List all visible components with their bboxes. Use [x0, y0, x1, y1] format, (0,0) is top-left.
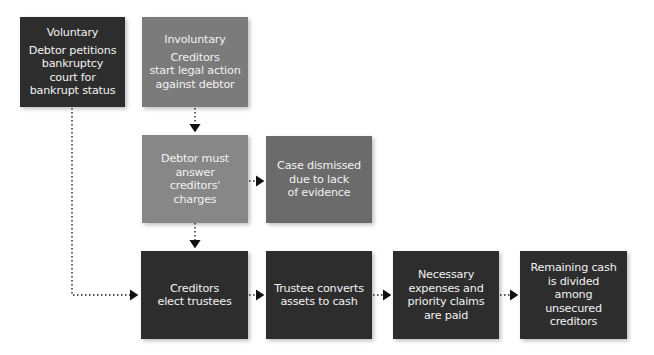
node-line: Creditors	[170, 51, 219, 65]
node-line: Debtor petitions	[29, 44, 117, 58]
node-line: among	[555, 288, 593, 302]
node-involuntary: Involuntary Creditors start legal action…	[142, 17, 248, 107]
node-line: of evidence	[288, 186, 351, 200]
node-line: are paid	[424, 309, 468, 323]
node-line: is divided	[548, 275, 600, 289]
node-line: court for	[49, 71, 95, 85]
node-line: unsecured	[545, 302, 602, 316]
node-line: Creditors	[170, 282, 219, 296]
node-title: Voluntary	[47, 26, 99, 40]
node-line: Trustee converts	[274, 282, 364, 296]
node-line: priority claims	[408, 295, 485, 309]
node-line: bankrupt status	[30, 84, 116, 98]
node-line: Necessary	[418, 268, 474, 282]
node-line: due to lack	[289, 173, 349, 187]
node-line: creditors'	[170, 179, 220, 193]
node-case-dismissed: Case dismissed due to lack of evidence	[266, 136, 372, 223]
node-remaining-cash: Remaining cash is divided among unsecure…	[520, 251, 627, 339]
node-line: bankruptcy	[42, 57, 103, 71]
node-trustee-converts: Trustee converts assets to cash	[266, 251, 372, 339]
node-title: Involuntary	[164, 33, 225, 47]
node-line: charges	[174, 193, 217, 207]
edge-voluntary-to-elect	[72, 108, 137, 295]
node-line: expenses and	[408, 282, 483, 296]
node-line: Case dismissed	[277, 159, 361, 173]
node-voluntary: Voluntary Debtor petitions bankruptcy co…	[20, 17, 125, 107]
node-line: assets to cash	[280, 295, 357, 309]
node-line: elect trustees	[157, 295, 231, 309]
node-line: Remaining cash	[530, 261, 616, 275]
node-line: creditors	[550, 315, 597, 329]
node-expenses-paid: Necessary expenses and priority claims a…	[393, 251, 499, 339]
node-line: answer	[175, 166, 214, 180]
node-debtor-answer: Debtor must answer creditors' charges	[142, 135, 248, 223]
node-line: Debtor must	[161, 152, 229, 166]
node-line: start legal action	[149, 64, 240, 78]
node-line: against debtor	[156, 78, 235, 92]
node-elect-trustees: Creditors elect trustees	[141, 251, 248, 339]
